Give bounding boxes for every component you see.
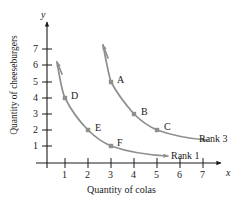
x-tick-label-2: 2: [85, 170, 90, 180]
x-tick-label-4: 4: [131, 170, 136, 180]
x-tick-label-1: 1: [62, 170, 67, 180]
data-point-C: [155, 128, 159, 132]
x-tick-label-5: 5: [154, 170, 159, 180]
x-tick-label-7: 7: [200, 170, 205, 180]
point-label-B: B: [141, 107, 148, 117]
point-label-F: F: [117, 138, 123, 148]
y-tick-label-6: 6: [33, 60, 38, 70]
y-tick-label-3: 3: [33, 109, 38, 119]
curve-label-rank-3: Rank 3: [199, 134, 228, 144]
data-point-D: [63, 96, 67, 100]
x-axis-variable-label: x: [226, 168, 230, 178]
data-point-F: [109, 144, 113, 148]
y-tick-label-5: 5: [33, 77, 38, 87]
y-tick-label-7: 7: [33, 44, 38, 54]
curve-rank-3: [103, 45, 207, 140]
point-label-D: D: [71, 91, 78, 101]
data-point-A: [109, 80, 113, 84]
data-point-E: [86, 128, 90, 132]
point-label-C: C: [164, 122, 171, 132]
x-tick-label-3: 3: [108, 170, 113, 180]
x-axis-title: Quantity of colas: [87, 185, 156, 195]
y-tick-label-2: 2: [33, 125, 38, 135]
curve-rank-1: [57, 62, 168, 156]
indifference-curve-chart: 7 6 5 4 3 2 1 1 2 3 4 5 6 7 y x D E F A …: [0, 0, 242, 202]
data-point-B: [132, 112, 136, 116]
y-axis: [42, 22, 52, 168]
y-axis-title-wrapper: Quantity of cheeseburgers: [0, 0, 24, 170]
y-axis-variable-label: y: [41, 10, 45, 20]
x-tick-label-6: 6: [177, 170, 182, 180]
y-axis-title: Quantity of cheeseburgers: [9, 25, 19, 145]
point-label-E: E: [95, 123, 101, 133]
point-label-A: A: [117, 75, 124, 85]
curve-label-rank-1: Rank 1: [171, 151, 200, 161]
y-tick-label-4: 4: [33, 93, 38, 103]
y-tick-label-1: 1: [33, 141, 38, 151]
